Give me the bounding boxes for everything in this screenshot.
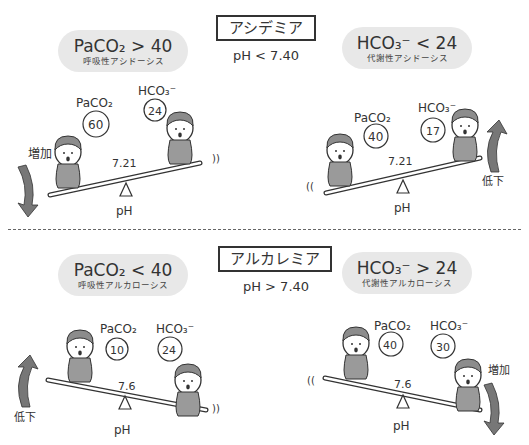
svg-text:PaCO₂: PaCO₂: [76, 96, 113, 110]
scene-respiratory-acidosis: 増加 PaCO₂ 60 HCO₃⁻ 24 7.21 pH )): [18, 84, 220, 218]
svg-text:24: 24: [148, 105, 162, 118]
svg-text:40: 40: [383, 339, 397, 352]
svg-text:HCO₃⁻: HCO₃⁻: [430, 319, 468, 333]
svg-text:pH: pH: [114, 423, 131, 437]
svg-text:7.6: 7.6: [394, 378, 412, 391]
svg-text:30: 30: [436, 341, 450, 354]
svg-text:pH: pH: [116, 204, 133, 218]
change-label-increase: 増加: [28, 147, 52, 161]
svg-text:増加: 増加: [488, 364, 510, 377]
svg-text:7.6: 7.6: [118, 380, 136, 393]
svg-text:HCO₃⁻: HCO₃⁻: [418, 101, 456, 115]
svg-text:)): )): [212, 153, 220, 164]
svg-text:24: 24: [162, 344, 176, 357]
scene-metabolic-alkalosis: PaCO₂ 40 HCO₃⁻ 30 7.6 pH 増加 ((: [307, 319, 510, 435]
scene-metabolic-acidosis: PaCO₂ 40 HCO₃⁻ 17 7.21 pH 低下 ((: [306, 101, 507, 215]
seesaw-illustrations: 増加 PaCO₂ 60 HCO₃⁻ 24 7.21 pH )) PaCO₂ 40…: [0, 0, 529, 445]
svg-text:PaCO₂: PaCO₂: [354, 111, 391, 125]
svg-text:PaCO₂: PaCO₂: [374, 319, 411, 333]
svg-text:HCO₃⁻: HCO₃⁻: [156, 322, 194, 336]
svg-text:17: 17: [426, 125, 440, 138]
scene-respiratory-alkalosis: PaCO₂ 10 HCO₃⁻ 24 7.6 pH 低下 )): [14, 322, 220, 437]
svg-text:10: 10: [110, 344, 124, 357]
svg-text:7.21: 7.21: [388, 155, 413, 168]
svg-text:)): )): [212, 403, 220, 414]
svg-text:pH: pH: [393, 419, 410, 433]
svg-text:低下: 低下: [482, 175, 504, 188]
svg-text:40: 40: [368, 130, 383, 144]
svg-text:60: 60: [88, 118, 103, 132]
svg-text:PaCO₂: PaCO₂: [100, 322, 137, 336]
svg-text:低下: 低下: [14, 411, 36, 424]
svg-text:HCO₃⁻: HCO₃⁻: [138, 84, 176, 98]
svg-text:pH: pH: [394, 201, 411, 215]
svg-text:((: ((: [307, 375, 315, 386]
svg-text:7.21: 7.21: [112, 157, 137, 170]
svg-text:((: ((: [306, 181, 314, 192]
